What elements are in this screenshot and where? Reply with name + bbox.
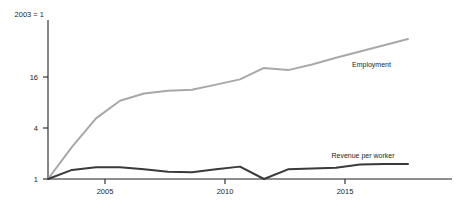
chart-container: 1 4 16 2003 = 1 2005 2010 2015 Employmen… [0, 0, 458, 208]
y-axis-unit-note: 2003 = 1 [15, 10, 44, 19]
y-tick-label-4: 4 [34, 124, 38, 133]
y-tick-label-16: 16 [30, 73, 38, 82]
x-tick-label-2005: 2005 [97, 187, 114, 196]
series-label-employment: Employment [352, 61, 391, 69]
x-tick-group [105, 179, 345, 184]
y-tick-label-1: 1 [34, 175, 38, 184]
y-tick-group [43, 77, 48, 179]
series-label-revenue-per-worker: Revenue per worker [331, 152, 395, 160]
x-tick-label-2015: 2015 [337, 187, 354, 196]
series-line-revenue-per-worker [48, 164, 408, 179]
x-tick-label-2010: 2010 [217, 187, 234, 196]
line-chart: 1 4 16 2003 = 1 2005 2010 2015 Employmen… [0, 0, 458, 208]
